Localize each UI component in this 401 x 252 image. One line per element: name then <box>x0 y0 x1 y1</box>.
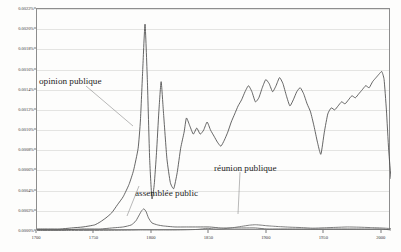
y-axis-tick-label: 0.0020% <box>18 26 34 31</box>
y-axis-tick-label: 0.0014% <box>18 86 34 91</box>
x-axis-tick-mark <box>208 230 209 233</box>
y-axis-tick-label: 0.0004% <box>18 187 34 192</box>
y-axis-tick-label: 0.0012% <box>18 106 34 111</box>
x-axis-tick-mark <box>323 230 324 233</box>
y-axis-tick-label: 0.0008% <box>18 147 34 152</box>
series-line <box>37 24 391 229</box>
x-axis-tick-label: 2000 <box>376 235 385 240</box>
x-axis-tick-label: 1750 <box>89 235 98 240</box>
annotation-assemblee-public: assemblée public <box>135 188 198 198</box>
y-axis: 0.0000%0.0002%0.0004%0.0006%0.0008%0.001… <box>0 0 36 252</box>
x-axis-tick-mark <box>380 230 381 233</box>
line-chart-svg <box>37 9 391 231</box>
y-axis-tick-label: 0.0002% <box>18 207 34 212</box>
annotation-reunion-publique: réunion publique <box>214 163 277 173</box>
y-axis-tick-label: 0.0006% <box>18 167 34 172</box>
annotation-opinion-publique: opinion publique <box>39 76 102 86</box>
x-axis-tick-mark <box>36 230 37 233</box>
series-line <box>37 209 391 230</box>
series-layer <box>37 9 389 229</box>
x-axis-tick-label: 1850 <box>204 235 213 240</box>
y-axis-tick-label: 0.0018% <box>18 46 34 51</box>
y-axis-tick-label: 0.0010% <box>18 127 34 132</box>
x-axis-tick-mark <box>265 230 266 233</box>
y-axis-tick-label: 0.0022% <box>18 6 34 11</box>
y-axis-tick-label: 0.0016% <box>18 66 34 71</box>
x-axis-tick-label: 1950 <box>319 235 328 240</box>
x-axis: 1700175018001850190019502000 <box>0 230 401 252</box>
x-axis-tick-label: 1900 <box>261 235 270 240</box>
x-axis-tick-mark <box>93 230 94 233</box>
plot-area <box>36 8 390 230</box>
x-axis-tick-mark <box>150 230 151 233</box>
x-axis-tick-label: 1700 <box>31 235 40 240</box>
x-axis-tick-label: 1800 <box>146 235 155 240</box>
chart-figure: 0.0000%0.0002%0.0004%0.0006%0.0008%0.001… <box>0 0 401 252</box>
